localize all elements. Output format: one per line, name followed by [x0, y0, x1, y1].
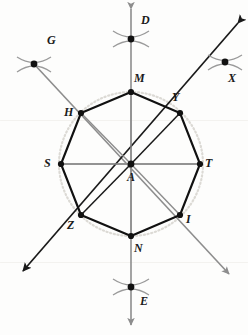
label-X: X — [228, 72, 236, 84]
radius-A-H — [81, 113, 131, 164]
label-G: G — [47, 34, 56, 46]
label-I: I — [186, 213, 191, 225]
label-H: H — [64, 106, 73, 118]
label-D: D — [141, 14, 150, 26]
point-M — [128, 89, 134, 95]
point-T — [197, 161, 203, 167]
radius-A-I — [131, 164, 180, 215]
point-E — [128, 284, 135, 291]
point-Z — [78, 212, 84, 218]
point-A — [128, 161, 135, 168]
point-Y — [177, 110, 183, 116]
point-I — [177, 212, 183, 218]
label-S: S — [44, 157, 51, 169]
point-G — [31, 61, 38, 68]
label-M: M — [134, 72, 145, 84]
point-D — [128, 36, 135, 43]
point-S — [58, 161, 64, 167]
label-N: N — [134, 242, 143, 254]
label-T: T — [205, 157, 212, 169]
point-H — [78, 110, 84, 116]
label-Z: Z — [67, 219, 74, 231]
label-Y: Y — [172, 91, 179, 103]
point-X — [222, 59, 229, 66]
label-A: A — [127, 171, 135, 183]
diagram-canvas: D G X E M Y T I N Z S H A — [0, 0, 248, 335]
radius-A-Z — [81, 164, 131, 215]
label-E: E — [140, 295, 148, 307]
point-N — [128, 233, 134, 239]
point-dots-group — [31, 36, 229, 291]
